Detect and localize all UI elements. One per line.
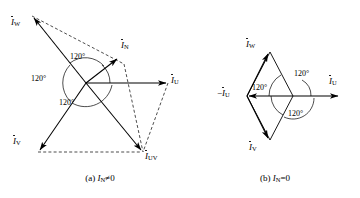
caption-panel-a: (a) IN≠0 — [0, 174, 200, 184]
phasor-figure: IW IN IU IV IUV 120° 120° 120° IW −IU IU… — [0, 0, 360, 198]
panel-b-phasors — [247, 54, 338, 138]
phasor-a-IN — [86, 59, 117, 83]
caption-b-relation: =0 — [280, 173, 290, 183]
edge-W-to-origin — [270, 52, 293, 96]
label-a-IV: IV — [13, 137, 21, 147]
label-a-IU-symbol: I — [171, 76, 174, 85]
edge-V-to-origin — [270, 96, 293, 140]
phasor-a-IV — [40, 83, 86, 150]
angle-b-2: 120° — [294, 70, 309, 78]
label-b-IW: IW — [246, 40, 255, 50]
angle-a-3: 120° — [59, 99, 74, 107]
panel-a-phasors — [34, 18, 166, 150]
label-a-IV-subscript: V — [16, 139, 21, 146]
dash-n-to-uv — [124, 64, 143, 152]
label-b-IU: IU — [329, 77, 337, 87]
label-b-IV: IV — [249, 143, 257, 153]
label-b-minus-IU-symbol: I — [222, 89, 225, 98]
label-b-IV-symbol: I — [249, 143, 252, 152]
angle-a-2: 120° — [31, 75, 46, 83]
label-a-IN-subscript: N — [124, 43, 129, 50]
caption-a-prefix: (a) — [85, 173, 95, 183]
dash-u-to-uv — [143, 83, 168, 152]
panel-b-geometry — [247, 52, 338, 140]
panel-a-geometry — [32, 16, 168, 152]
label-b-IV-subscript: V — [252, 145, 257, 152]
phasor-a-IUV — [86, 83, 141, 150]
label-a-IW-subscript: W — [14, 20, 20, 27]
label-a-IU-subscript: U — [174, 78, 179, 85]
label-a-IV-symbol: I — [13, 137, 16, 146]
label-a-IN: IN — [121, 41, 129, 51]
arc-b-w-to-minusu — [269, 75, 281, 96]
caption-b-prefix: (b) — [260, 173, 271, 183]
label-a-IUV-subscript: UV — [148, 154, 157, 161]
angle-a-1: 120° — [70, 53, 85, 61]
caption-panel-b: (b) IN=0 — [190, 174, 360, 184]
phasor-b-IV — [247, 96, 268, 138]
label-a-IN-symbol: I — [121, 41, 124, 50]
angle-b-1: 120° — [252, 84, 267, 92]
label-b-minus-IU-subscript: U — [225, 91, 230, 98]
label-b-IW-symbol: I — [246, 40, 249, 49]
arc-b-u-to-w — [302, 80, 311, 96]
label-b-IU-symbol: I — [329, 77, 332, 86]
arc-b-minusu-to-v — [271, 96, 283, 115]
label-a-IW: IW — [11, 18, 20, 28]
label-a-IW-symbol: I — [11, 18, 14, 27]
label-a-IU: IU — [171, 76, 179, 86]
caption-a-relation: ≠0 — [105, 173, 114, 183]
label-b-IW-subscript: W — [249, 42, 255, 49]
label-a-IUV-symbol: I — [145, 152, 148, 161]
arc-v-to-u — [72, 85, 112, 107]
arc-w-to-v — [63, 65, 70, 101]
label-b-minus-IU: −IU — [217, 89, 230, 99]
phasor-svg-canvas — [0, 0, 360, 198]
label-b-IU-subscript: U — [332, 79, 337, 86]
angle-b-3: 120° — [288, 110, 303, 118]
label-a-IUV: IUV — [145, 152, 157, 162]
